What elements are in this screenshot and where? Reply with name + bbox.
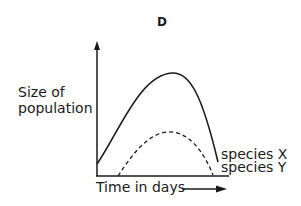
population-graph <box>0 0 301 206</box>
y-axis-arrow-icon <box>94 41 100 50</box>
time-arrow-icon <box>216 186 227 193</box>
x-axis-label: Time in days <box>96 179 185 195</box>
legend-species-y: species Y <box>221 161 287 174</box>
legend: species X species Y <box>221 148 287 174</box>
species-y-curve <box>118 132 213 176</box>
